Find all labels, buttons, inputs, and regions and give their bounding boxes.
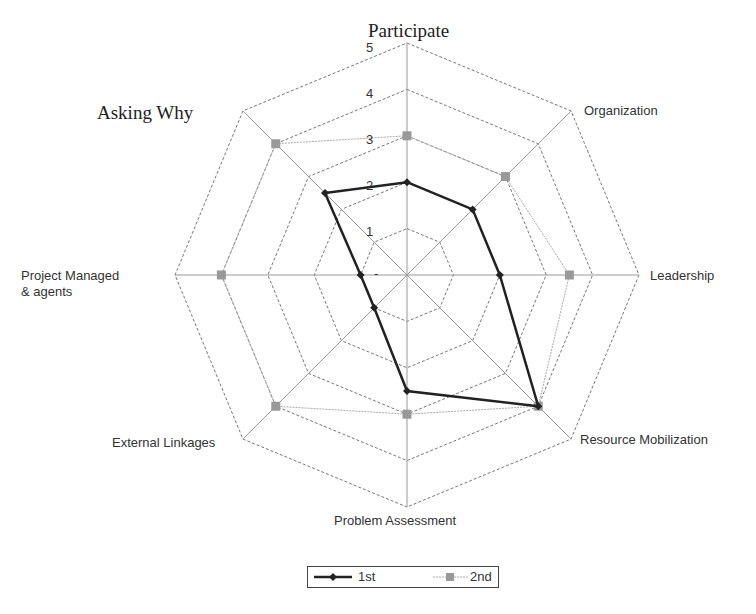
axis-label-asking-why: Asking Why [97, 102, 193, 124]
tick-2: 2 [366, 178, 373, 193]
marker-diamond [403, 387, 411, 395]
marker-square [271, 139, 280, 148]
marker-diamond [357, 271, 365, 279]
axis-label-leadership: Leadership [650, 268, 714, 283]
axis-label-project-managed-2: & agents [21, 284, 72, 299]
axis-label-resource-mobilization: Resource Mobilization [580, 432, 708, 447]
axis-label-project-managed: Project Managed [21, 268, 119, 283]
marker-square [501, 172, 510, 181]
marker-square [271, 402, 280, 411]
axis-label-participate: Participate [368, 20, 449, 42]
marker-square [403, 131, 412, 140]
marker-square [565, 271, 574, 280]
tick-5: 5 [366, 40, 373, 55]
tick-3: 3 [366, 132, 373, 147]
axis-spoke [243, 275, 407, 439]
tick-1: 1 [366, 224, 373, 239]
legend-2nd: 2nd [470, 569, 492, 584]
tick-0: - [374, 266, 378, 281]
series-1st [325, 182, 538, 406]
axis-spoke [407, 275, 571, 439]
marker-diamond [496, 271, 504, 279]
axis-label-organization: Organization [584, 103, 658, 118]
marker-square [217, 271, 226, 280]
axis-label-external-linkages: External Linkages [112, 435, 215, 450]
legend: 1st 2nd [307, 566, 499, 588]
marker-square [403, 410, 412, 419]
axis-label-problem-assessment: Problem Assessment [334, 513, 456, 528]
legend-1st: 1st [358, 569, 375, 584]
marker-diamond [403, 178, 411, 186]
tick-4: 4 [366, 86, 373, 101]
